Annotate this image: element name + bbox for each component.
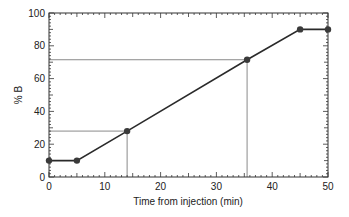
y-tick-label: 20	[34, 139, 46, 150]
y-tick-label: 0	[39, 172, 45, 183]
y-axis-label: % B	[13, 86, 24, 105]
y-tick-label: 60	[34, 73, 46, 84]
data-point	[297, 26, 303, 32]
x-tick-label: 10	[99, 181, 111, 192]
x-tick-label: 50	[322, 181, 334, 192]
x-tick-label: 40	[267, 181, 279, 192]
x-tick-label: 20	[155, 181, 167, 192]
y-tick-label: 100	[28, 8, 45, 19]
x-tick-labels: 01020304050	[46, 181, 334, 192]
data-point	[46, 157, 52, 163]
data-point	[244, 57, 250, 63]
gradient-chart: 01020304050 020406080100 Time from injec…	[0, 0, 349, 217]
y-tick-label: 40	[34, 106, 46, 117]
gradient-line	[49, 29, 328, 160]
data-point	[74, 157, 80, 163]
x-tick-label: 0	[46, 181, 52, 192]
data-point	[124, 128, 130, 134]
x-axis-label: Time from injection (min)	[133, 196, 243, 207]
y-tick-label: 80	[34, 40, 46, 51]
data-point	[325, 26, 331, 32]
x-tick-label: 30	[211, 181, 223, 192]
y-tick-labels: 020406080100	[28, 8, 45, 183]
